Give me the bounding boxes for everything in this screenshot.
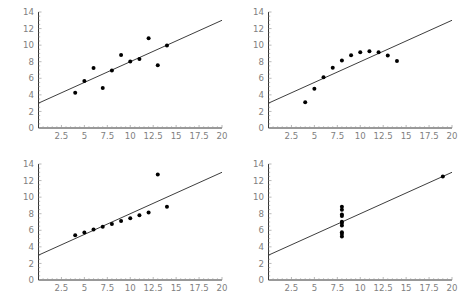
x-tick-label: 12.5 [373, 131, 392, 141]
x-tick-label: 10 [125, 282, 136, 292]
data-point [339, 212, 343, 216]
data-point [339, 231, 343, 235]
y-tick-label: 4 [258, 90, 263, 100]
x-tick-label: 20 [217, 131, 228, 141]
data-point [339, 207, 343, 211]
data-point [128, 216, 132, 220]
data-point [147, 36, 151, 40]
y-tick-label: 4 [29, 90, 34, 100]
x-tick-label: 17.5 [189, 131, 208, 141]
x-tick-label: 15 [171, 282, 182, 292]
y-tick-label: 10 [23, 40, 34, 50]
data-point [349, 53, 353, 57]
x-tick-label: 17.5 [419, 282, 438, 292]
x-tick-label: 10 [354, 282, 365, 292]
regression-line [268, 20, 452, 103]
x-tick-label: 20 [217, 282, 228, 292]
data-point [82, 79, 86, 83]
data-point [339, 220, 343, 224]
data-point [156, 63, 160, 67]
data-point [101, 86, 105, 90]
y-tick-label: 8 [29, 208, 34, 218]
chart-panel-bottom-right: 2.557.51012.51517.52002468101214 [230, 152, 459, 303]
x-tick-label: 7.5 [100, 282, 114, 292]
y-tick-label: 10 [23, 192, 34, 202]
data-point [358, 50, 362, 54]
y-tick-label: 0 [29, 123, 34, 133]
data-point [147, 210, 151, 214]
data-point [110, 221, 114, 225]
data-point [82, 230, 86, 234]
data-point [101, 224, 105, 228]
x-tick-label: 17.5 [419, 131, 438, 141]
y-tick-label: 4 [258, 241, 263, 251]
y-tick-label: 2 [258, 258, 263, 268]
data-point [312, 87, 316, 91]
scatter-plot-top-right: 2.557.51012.51517.52002468101214 [230, 0, 459, 152]
data-point [303, 100, 307, 104]
x-tick-label: 17.5 [189, 282, 208, 292]
data-point [119, 219, 123, 223]
data-point [321, 75, 325, 79]
data-point [440, 174, 444, 178]
data-point [73, 233, 77, 237]
y-tick-label: 12 [253, 175, 264, 185]
x-tick-label: 7.5 [330, 282, 344, 292]
y-tick-label: 0 [258, 123, 263, 133]
data-point [339, 59, 343, 63]
y-tick-label: 10 [253, 192, 264, 202]
y-tick-label: 6 [258, 225, 263, 235]
y-tick-label: 10 [253, 40, 264, 50]
x-tick-label: 20 [446, 131, 457, 141]
anscombe-quartet-figure: 2.557.51012.51517.52002468101214 2.557.5… [0, 0, 459, 303]
figure-caption-fragment [0, 294, 459, 303]
data-point [128, 59, 132, 63]
x-tick-label: 10 [354, 131, 365, 141]
data-point [137, 213, 141, 217]
x-tick-label: 2.5 [55, 282, 69, 292]
data-point [394, 59, 398, 63]
data-point [92, 227, 96, 231]
x-tick-label: 2.5 [284, 131, 298, 141]
data-point [156, 172, 160, 176]
x-tick-label: 5 [82, 282, 87, 292]
scatter-plot-bottom-right: 2.557.51012.51517.52002468101214 [230, 152, 459, 303]
y-tick-label: 2 [29, 107, 34, 117]
y-tick-label: 14 [253, 7, 264, 17]
data-point [137, 57, 141, 61]
x-tick-label: 20 [446, 282, 457, 292]
x-tick-label: 2.5 [284, 282, 298, 292]
x-tick-label: 12.5 [373, 282, 392, 292]
y-tick-label: 14 [23, 7, 34, 17]
data-point [165, 43, 169, 47]
y-tick-label: 8 [29, 57, 34, 67]
data-point [385, 54, 389, 58]
data-point [376, 50, 380, 54]
data-point [73, 91, 77, 95]
y-tick-label: 2 [29, 258, 34, 268]
chart-panel-top-left: 2.557.51012.51517.52002468101214 [0, 0, 230, 152]
y-tick-label: 14 [253, 159, 264, 169]
scatter-plot-top-left: 2.557.51012.51517.52002468101214 [0, 0, 230, 152]
data-point [110, 68, 114, 72]
regression-line [268, 172, 452, 255]
chart-panel-bottom-left: 2.557.51012.51517.52002468101214 [0, 152, 230, 303]
data-point [165, 204, 169, 208]
x-tick-label: 5 [311, 282, 316, 292]
x-tick-label: 7.5 [330, 131, 344, 141]
x-tick-label: 7.5 [100, 131, 114, 141]
y-tick-label: 8 [258, 57, 263, 67]
x-tick-label: 15 [400, 282, 411, 292]
y-tick-label: 6 [29, 73, 34, 83]
y-tick-label: 12 [23, 24, 34, 34]
y-tick-label: 6 [258, 73, 263, 83]
y-tick-label: 6 [29, 225, 34, 235]
chart-panel-top-right: 2.557.51012.51517.52002468101214 [230, 0, 459, 152]
data-point [367, 49, 371, 53]
x-tick-label: 15 [171, 131, 182, 141]
x-tick-label: 5 [82, 131, 87, 141]
data-point [330, 66, 334, 70]
data-point [119, 53, 123, 57]
y-tick-label: 14 [23, 159, 34, 169]
x-tick-label: 12.5 [144, 131, 163, 141]
